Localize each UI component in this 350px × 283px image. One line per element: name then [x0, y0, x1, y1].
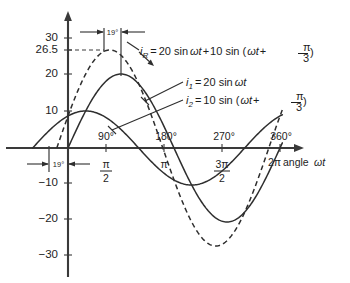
y-label-minus-30: −30 — [38, 248, 58, 260]
equation-ir-text: iR=20 sinωt+10 sin (ωt+ — [140, 45, 266, 60]
equation-label-ir: iR=20 sinωt+10 sin (ωt+ π 3 ) — [140, 41, 314, 64]
y-tick-labels-group: 30 26.5 20 10 −10 −20 −30 — [36, 31, 58, 260]
x-axis-title-group: 2π angle ωt — [268, 156, 326, 168]
eq-ir-omega-t: ωt — [190, 45, 203, 57]
equation-i2-text: i2=10 sin (ωt+ — [186, 94, 259, 109]
eq-ir-plus: + — [203, 45, 209, 57]
eq-i1-sub: 1 — [188, 82, 192, 91]
x-label-pi-over-2-numerator: π — [102, 158, 109, 170]
phase-shift-top-annotation: 19° — [80, 28, 145, 76]
x-axis-title-word: angle — [283, 156, 309, 168]
equation-label-i2: i2=10 sin (ωt+ π 3 ) — [186, 90, 307, 113]
x-label-pi-over-2-denominator: 2 — [103, 172, 109, 184]
leader-i2 — [112, 100, 183, 130]
y-axis-arrowhead — [64, 11, 72, 21]
chart-svg: 30 26.5 20 10 −10 −20 −30 90° 180° 270° … — [0, 0, 350, 283]
phase-top-arrowhead-left — [97, 29, 104, 34]
x-label-3pi-over-2-numerator: 3π — [215, 158, 228, 170]
eq-ir-sub: R — [142, 51, 148, 60]
x-label-3pi-over-2-denominator: 2 — [219, 172, 225, 184]
eq-i2-close-paren: ) — [303, 95, 307, 107]
eq-i1-rhs: 20 sin — [203, 76, 232, 88]
x-label-90deg: 90° — [98, 130, 114, 142]
y-label-30: 30 — [45, 31, 58, 43]
eq-i2-equals: = — [195, 94, 201, 106]
eq-ir-rhs-a: 20 sin — [159, 45, 188, 57]
sine-waveform-chart: 30 26.5 20 10 −10 −20 −30 90° 180° 270° … — [0, 0, 350, 283]
equation-i1-text: i1=20 sinωt — [186, 76, 247, 91]
phase-top-label: 19° — [107, 28, 118, 37]
eq-ir-rhs-b: 10 sin ( — [210, 45, 246, 57]
y-label-10: 10 — [45, 104, 58, 116]
phase-bottom-arrowhead-left — [42, 161, 49, 166]
leader-i1 — [145, 82, 183, 101]
phase-shift-bottom-annotation: 19° — [27, 146, 90, 172]
leader-ir-upper — [127, 42, 139, 50]
eq-ir-frac-denominator: 3 — [303, 52, 309, 64]
eq-ir-equals: = — [150, 45, 156, 57]
x-label-pi: π — [160, 158, 167, 170]
eq-i2-frac-denominator: 3 — [296, 101, 302, 113]
eq-i1-omega-t: ωt — [235, 76, 248, 88]
eq-i2-plus: + — [253, 94, 259, 106]
eq-ir-omega-t2: ωt — [247, 45, 260, 57]
eq-i1-equals: = — [195, 76, 201, 88]
y-label-minus-10: −10 — [38, 176, 58, 188]
phase-bottom-arrowhead-right — [68, 161, 75, 166]
x-label-270deg: 270° — [213, 130, 235, 142]
y-label-20: 20 — [45, 67, 58, 79]
eq-i2-sub: 2 — [187, 100, 193, 109]
x-axis-title-variable: ωt — [314, 156, 326, 168]
eq-i2-rhs: 10 sin ( — [203, 94, 239, 106]
eq-ir-plus2: + — [260, 45, 266, 57]
equation-label-i1: i1=20 sinωt — [186, 76, 247, 91]
eq-i2-omega-t: ωt — [240, 94, 253, 106]
x-axis-arrowhead — [294, 144, 304, 152]
x-axis-title-2pi: 2π — [268, 156, 281, 168]
phase-top-arrowhead-right — [121, 29, 128, 34]
eq-ir-close-paren: ) — [310, 46, 314, 58]
y-label-26-5: 26.5 — [36, 43, 58, 55]
phase-bottom-label: 19° — [53, 160, 64, 169]
y-label-minus-20: −20 — [38, 212, 58, 224]
